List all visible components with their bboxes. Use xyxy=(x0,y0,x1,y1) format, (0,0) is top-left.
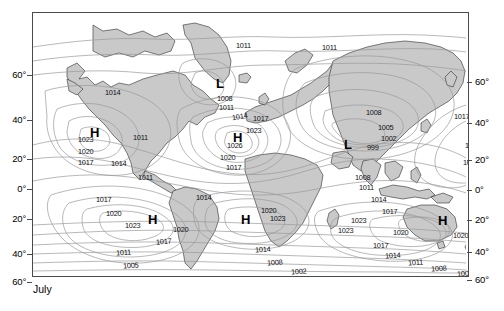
isobar-label: 1017 xyxy=(96,195,111,204)
isobar-label: 1011 xyxy=(138,173,153,182)
isobar-label: 1011 xyxy=(219,103,234,112)
lat-tick-right-3: 0° xyxy=(475,184,501,195)
isobar-label: 1014 xyxy=(105,88,120,97)
lat-tickmark-right-5 xyxy=(467,252,472,253)
lat-tickmark-left-1 xyxy=(27,120,32,121)
lat-tick-right-2: 20° xyxy=(475,154,501,165)
isobar-label: 1017 xyxy=(253,114,268,123)
isobar-label: 1014 xyxy=(111,159,126,168)
isobar-label: 1002 xyxy=(381,134,396,143)
isobar-label: 1011 xyxy=(236,41,251,50)
pressure-center-south-atlantic-high: H xyxy=(241,213,250,226)
isobar-label: 1014 xyxy=(371,195,386,204)
figure-root: HHLLHHH 10111011101410081011101410171008… xyxy=(0,0,504,311)
lat-tickmark-right-3 xyxy=(467,190,472,191)
isobar-label: 1023 xyxy=(351,216,366,225)
isobar-label: 1017 xyxy=(373,241,388,250)
pressure-center-asian-monsoon-low: L xyxy=(344,138,352,151)
isobar-label: 1011 xyxy=(133,133,148,142)
isobar-label: 1008 xyxy=(355,173,370,182)
isobar-label: 1014 xyxy=(255,244,271,254)
figure-caption: July xyxy=(33,283,52,295)
isobar-label: 1020 xyxy=(106,209,121,218)
pressure-center-icelandic-low: L xyxy=(216,77,224,90)
isobar-label: 1020 xyxy=(220,153,235,162)
lat-tickmark-left-4 xyxy=(27,219,32,220)
isobar-label: 999 xyxy=(367,143,379,152)
isobar-label: 1017 xyxy=(454,112,469,121)
lat-tickmark-left-5 xyxy=(27,254,32,255)
lat-tickmark-left-0 xyxy=(27,75,32,76)
lat-tick-right-5: 40° xyxy=(475,246,501,257)
isobar-label: 1011 xyxy=(359,183,374,192)
lat-tick-left-5: 40° xyxy=(0,248,26,259)
isobar-label: 1005 xyxy=(378,123,393,132)
world-pressure-map: HHLLHHH 10111011101410081011101410171008… xyxy=(32,12,469,277)
isobar-label: 1023 xyxy=(125,221,140,230)
lat-tick-right-0: 60° xyxy=(475,76,501,87)
isobar-label: 1008 xyxy=(267,257,283,267)
lat-tick-left-4: 20° xyxy=(0,213,26,224)
isobar-label: 1008 xyxy=(217,94,232,103)
isobar-label: 1008 xyxy=(366,108,381,117)
lat-tickmark-right-6 xyxy=(467,280,472,281)
pressure-center-australian-high: H xyxy=(438,214,447,227)
isobar-label: 1017 xyxy=(382,207,397,216)
isobar-label: 1011 xyxy=(322,43,337,52)
lat-tick-right-4: 20° xyxy=(475,214,501,225)
isobar-label: 1023 xyxy=(270,214,285,223)
isobar-label: 1008 xyxy=(431,263,447,273)
lat-tick-left-1: 40° xyxy=(0,114,26,125)
lat-tick-left-6: 60° xyxy=(0,276,26,287)
lat-tickmark-left-2 xyxy=(27,159,32,160)
isobar-label: 1023 xyxy=(246,126,261,135)
lat-tick-left-3: 0° xyxy=(0,183,26,194)
isobar-label: 1023 xyxy=(338,226,353,235)
lat-tick-left-0: 60° xyxy=(0,69,26,80)
isobar-label: 1014 xyxy=(465,141,469,150)
lat-tickmark-left-3 xyxy=(27,189,32,190)
isobar-label: 1002 xyxy=(291,266,307,276)
pressure-center-south-pacific-high: H xyxy=(148,213,157,226)
lat-tick-right-6: 60° xyxy=(475,274,501,285)
isobar-label: 1020 xyxy=(453,231,468,240)
isobar-label: 1026 xyxy=(227,141,242,150)
isobar-label: 1023 xyxy=(78,135,93,144)
lat-tickmark-right-4 xyxy=(467,220,472,221)
lat-tickmark-right-0 xyxy=(467,82,472,83)
lat-tickmark-right-1 xyxy=(467,123,472,124)
isobar-label: 1014 xyxy=(385,250,401,260)
isobar-label: 1011 xyxy=(408,257,423,267)
isobar-label: 1017 xyxy=(78,158,93,167)
isobar-label: 1020 xyxy=(173,225,188,234)
isobar-label: 1020 xyxy=(393,228,408,237)
lat-tick-left-2: 20° xyxy=(0,153,26,164)
lat-tickmark-left-6 xyxy=(27,282,32,283)
isobar-label: 1017 xyxy=(156,236,172,246)
isobar-label: 1005 xyxy=(123,260,139,270)
isobar-label: 1017 xyxy=(226,163,241,172)
lat-tick-right-1: 40° xyxy=(475,117,501,128)
lat-tickmark-right-2 xyxy=(467,160,472,161)
isobar-label: 1011 xyxy=(116,247,131,257)
isobar-label: 1020 xyxy=(78,147,93,156)
isobar-label: 1014 xyxy=(196,193,211,202)
isobar-label: 1005 xyxy=(445,274,461,277)
